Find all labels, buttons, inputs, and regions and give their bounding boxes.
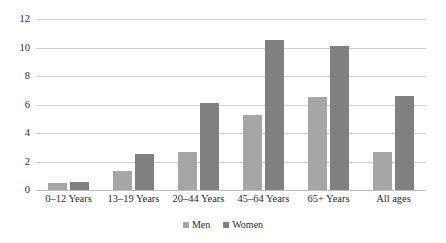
bar-men[interactable] (48, 183, 67, 190)
legend-item-women[interactable]: Women (223, 220, 263, 230)
x-axis-label: 45–64 Years (231, 193, 296, 205)
y-axis-tick-label: 12 (20, 14, 31, 25)
y-axis-tick-label: 0 (25, 185, 30, 196)
axis-baseline: 0 (36, 190, 426, 191)
x-axis-label: All ages (361, 193, 426, 205)
bar-men[interactable] (178, 152, 197, 190)
legend-label: Women (232, 220, 263, 230)
plot-area: 024681012 (36, 19, 426, 190)
bar-men[interactable] (113, 171, 132, 190)
y-axis-tick-label: 8 (25, 71, 30, 82)
bar-women[interactable] (200, 103, 219, 190)
legend-label: Men (192, 220, 210, 230)
bar-women[interactable] (135, 154, 154, 190)
x-axis-label: 65+ Years (296, 193, 361, 205)
bar-women[interactable] (330, 46, 349, 190)
y-axis-tick-label: 10 (20, 42, 31, 53)
legend-item-men[interactable]: Men (183, 220, 210, 230)
bar-group (361, 19, 426, 190)
y-axis-tick-label: 6 (25, 99, 30, 110)
bar-group (166, 19, 231, 190)
x-axis-label: 13–19 Years (101, 193, 166, 205)
bar-men[interactable] (373, 152, 392, 190)
y-axis-tick-label: 2 (25, 156, 30, 167)
x-axis-label: 20–44 Years (166, 193, 231, 205)
bar-women[interactable] (70, 182, 89, 190)
bar-women[interactable] (395, 96, 414, 190)
bar-men[interactable] (308, 97, 327, 190)
legend-swatch-icon (223, 222, 229, 228)
bar-group (101, 19, 166, 190)
bar-chart: 024681012 0–12 Years13–19 Years20–44 Yea… (0, 0, 446, 243)
bar-group (296, 19, 361, 190)
x-axis-label: 0–12 Years (36, 193, 101, 205)
x-axis-labels: 0–12 Years13–19 Years20–44 Years45–64 Ye… (36, 193, 426, 205)
bar-group (231, 19, 296, 190)
bar-men[interactable] (243, 115, 262, 190)
chart-legend: MenWomen (0, 220, 446, 230)
legend-swatch-icon (183, 222, 189, 228)
bar-group (36, 19, 101, 190)
bar-women[interactable] (265, 40, 284, 190)
bar-groups (36, 19, 426, 190)
y-axis-tick-label: 4 (25, 128, 30, 139)
